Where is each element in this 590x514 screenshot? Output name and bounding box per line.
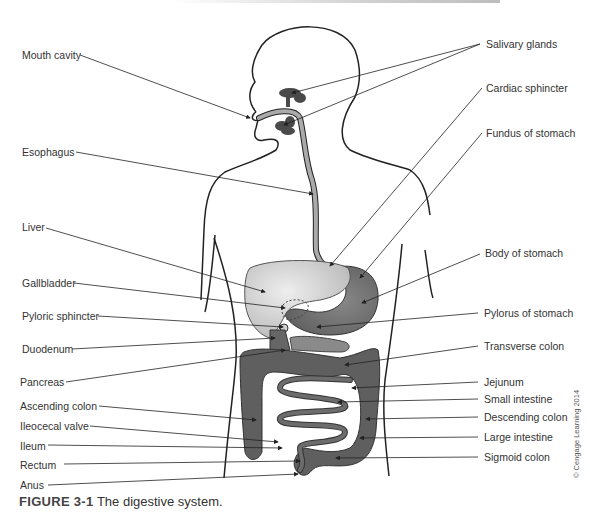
- label-ileum: Ileum: [20, 440, 46, 452]
- label-body-of-stomach: Body of stomach: [485, 247, 563, 259]
- label-duodenum: Duodenum: [22, 343, 73, 355]
- duodenum-shape: [270, 330, 290, 352]
- label-cardiac-sphincter: Cardiac sphincter: [486, 82, 568, 94]
- label-transverse-colon: Transverse colon: [484, 340, 564, 352]
- label-fundus-of-stomach: Fundus of stomach: [486, 127, 575, 139]
- pancreas-shape: [290, 336, 349, 352]
- figure-caption-text: The digestive system.: [97, 494, 223, 509]
- label-pylorus-of-stomach: Pylorus of stomach: [484, 307, 573, 319]
- label-large-intestine: Large intestine: [484, 431, 553, 443]
- label-descending-colon: Descending colon: [484, 411, 567, 423]
- label-jejunum: Jejunum: [484, 376, 524, 388]
- label-pyloric-sphincter: Pyloric sphincter: [22, 310, 99, 322]
- label-sigmoid-colon: Sigmoid colon: [484, 451, 550, 463]
- label-pancreas: Pancreas: [20, 376, 64, 388]
- label-ileocecal-valve: Ileocecal valve: [20, 420, 89, 432]
- label-liver: Liver: [22, 221, 45, 233]
- label-mouth-cavity: Mouth cavity: [22, 49, 81, 61]
- label-gallbladder: Gallbladder: [22, 277, 76, 289]
- label-salivary-glands: Salivary glands: [486, 38, 557, 50]
- label-small-intestine: Small intestine: [484, 393, 552, 405]
- label-anus: Anus: [20, 479, 44, 491]
- figure-number: FIGURE 3-1: [19, 494, 94, 509]
- label-esophagus: Esophagus: [22, 146, 75, 158]
- label-ascending-colon: Ascending colon: [20, 400, 97, 412]
- esophagus-shape: [259, 111, 335, 272]
- figure-caption: FIGURE 3-1 The digestive system.: [19, 494, 223, 509]
- label-rectum: Rectum: [20, 459, 56, 471]
- copyright-notice: © Cengage Learning 2014: [572, 390, 581, 478]
